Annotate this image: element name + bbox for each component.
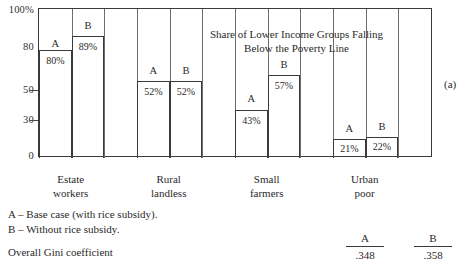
bar-series-label-estate-workers-a: A [39,38,72,49]
plot-area: Share of Lower Income Groups Falling Bel… [38,8,432,157]
y-tick-label-0: 0 [29,151,34,162]
category-label-small-farmers-line2: farmers [234,186,299,200]
category-label-urban-poor-line1: Urban [332,172,397,186]
bar-series-label-small-farmers-b: B [268,59,301,70]
legend: A – Base case (with rice subsidy). B – W… [8,207,157,237]
gini-column-b-header: B [414,232,452,247]
bar-small-farmers-b: 57% [268,75,301,158]
panel-tag: (a) [444,78,456,90]
legend-entry-b: B – Without rice subsidy. [8,222,157,237]
legend-entry-a: A – Base case (with rice subsidy). [8,207,157,222]
category-label-urban-poor: Urban poor [332,172,397,200]
bar-series-label-rural-landless-b: B [170,65,203,76]
bar-small-farmers-a: 43% [235,110,268,158]
category-label-estate-workers: Estate workers [38,172,103,200]
slot-divider-2 [104,9,105,158]
bar-value-small-farmers-a: 43% [236,115,267,126]
category-label-small-farmers-line1: Small [234,172,299,186]
bar-value-rural-landless-b: 52% [171,86,202,97]
bar-value-urban-poor-a: 21% [334,143,365,154]
gini-column-b: B .358 [414,232,452,262]
category-label-small-farmers: Small farmers [234,172,299,200]
y-tick-label-100: 100% [9,5,34,16]
gini-column-a: A .348 [346,232,384,262]
bar-urban-poor-a: 21% [333,139,366,158]
bar-value-rural-landless-a: 52% [138,86,169,97]
category-label-urban-poor-line2: poor [332,186,397,200]
category-label-estate-workers-line1: Estate [38,172,103,186]
bar-estate-workers-a: 80% [39,50,72,158]
y-tick-label-80: 80 [23,42,34,53]
bar-rural-landless-a: 52% [137,81,170,159]
category-label-rural-landless-line2: landless [136,186,201,200]
gini-coefficient-label: Overall Gini coefficient [8,245,113,259]
gini-column-a-value: .348 [346,249,384,262]
bar-value-small-farmers-b: 57% [269,80,300,91]
bar-value-estate-workers-b: 89% [73,41,104,52]
y-axis: 100% 80 50 30 0 [0,0,34,170]
bar-series-label-estate-workers-b: B [72,20,105,31]
bar-series-label-rural-landless-a: A [137,65,170,76]
category-label-estate-workers-line2: workers [38,186,103,200]
bar-series-label-small-farmers-a: A [235,93,268,104]
gini-column-a-header: A [346,232,384,247]
chart-title-line1: Share of Lower Income Groups Falling [189,27,404,41]
category-label-rural-landless: Rural landless [136,172,201,200]
bar-urban-poor-b: 22% [366,137,399,158]
bar-series-label-urban-poor-b: B [366,121,399,132]
bar-series-label-urban-poor-a: A [333,123,366,134]
bar-rural-landless-b: 52% [170,81,203,159]
chart-figure: 100% 80 50 30 0 Share of Lower Income Gr… [0,0,469,264]
bar-value-urban-poor-b: 22% [367,141,398,152]
chart-title: Share of Lower Income Groups Falling Bel… [189,27,404,55]
bar-value-estate-workers-a: 80% [40,55,71,66]
category-label-rural-landless-line1: Rural [136,172,201,186]
bar-estate-workers-b: 89% [72,36,105,158]
gini-column-b-value: .358 [414,249,452,262]
chart-title-line2: Below the Poverty Line [189,41,404,55]
